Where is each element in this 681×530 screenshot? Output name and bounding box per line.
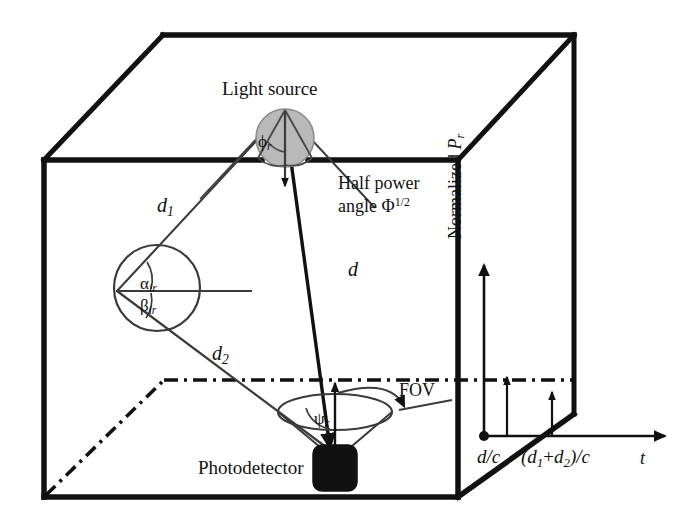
half-power-line1: Half power bbox=[338, 173, 419, 193]
d1-base: d bbox=[157, 194, 167, 216]
alpha-subscript: ir bbox=[149, 282, 157, 295]
psi-subscript: r bbox=[325, 417, 330, 430]
tick2-d1: d bbox=[527, 446, 537, 467]
fov-outer-ray bbox=[399, 400, 452, 410]
figure-root: Light source Half power angle Φ1/2 Photo… bbox=[0, 0, 681, 530]
tick2-plus: + bbox=[543, 446, 554, 467]
fov-leader-arrow bbox=[338, 388, 404, 406]
y-axis-variable: P bbox=[445, 139, 465, 150]
plot-tick-label-dc: d/c bbox=[477, 447, 500, 468]
psi-base: ψ bbox=[314, 409, 325, 428]
beta-subscript: ir bbox=[149, 304, 157, 317]
beta-base: β bbox=[140, 296, 149, 315]
distance-d-label: d bbox=[348, 259, 358, 281]
plot-y-axis-label: Normalized Pr bbox=[446, 134, 468, 239]
half-power-exponent: 1/2 bbox=[395, 195, 410, 209]
phi-base: ϕ bbox=[258, 132, 267, 151]
alpha-base: α bbox=[140, 274, 149, 293]
plot-origin-dot bbox=[479, 431, 489, 441]
tick2-d2: d bbox=[554, 446, 564, 467]
detector-body bbox=[313, 445, 357, 491]
fov-label: FOV bbox=[399, 381, 435, 400]
ceiling-left-diagonal bbox=[44, 35, 163, 160]
photodetector-label: Photodetector bbox=[198, 458, 304, 479]
distance-d1-label: d1 bbox=[157, 195, 174, 219]
half-power-line2: angle Φ bbox=[338, 196, 395, 216]
beta-angle-label: βir bbox=[140, 297, 156, 318]
tick2-close: )/c bbox=[570, 446, 590, 467]
phi-angle-label: ϕr bbox=[258, 133, 271, 154]
plot-x-axis-label: t bbox=[640, 449, 645, 468]
half-power-angle-label: Half power angle Φ1/2 bbox=[338, 172, 419, 217]
reflector-circle bbox=[114, 245, 200, 331]
d2-subscript: 2 bbox=[222, 352, 229, 367]
d1-subscript: 1 bbox=[167, 204, 174, 219]
psi-angle-label: ψr bbox=[314, 410, 329, 431]
y-axis-subscript: r bbox=[453, 134, 467, 139]
y-axis-prefix: Normalized bbox=[445, 150, 465, 239]
ceiling-right-diagonal bbox=[458, 35, 574, 160]
light-source-label: Light source bbox=[222, 79, 318, 100]
floor-plane-diagonal bbox=[46, 380, 164, 495]
distance-d2-label: d2 bbox=[212, 343, 229, 367]
alpha-angle-label: αir bbox=[140, 275, 157, 296]
phi-subscript: r bbox=[267, 140, 272, 153]
d2-base: d bbox=[212, 342, 222, 364]
plot-tick-label-d1d2c: (d1+d2)/c bbox=[521, 447, 590, 470]
reflector-point bbox=[114, 245, 252, 331]
